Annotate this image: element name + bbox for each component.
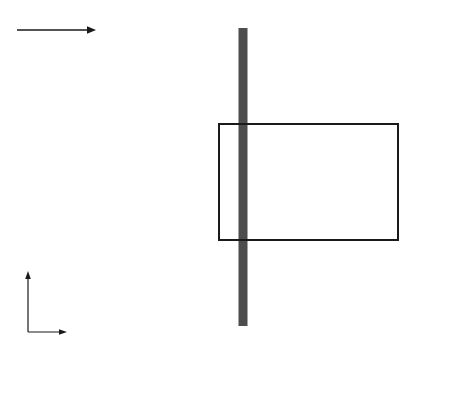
- diagram-layer: [0, 0, 470, 395]
- coordinate-axes: [25, 271, 67, 335]
- central-tower: [239, 28, 248, 326]
- figure-canvas: [0, 0, 470, 395]
